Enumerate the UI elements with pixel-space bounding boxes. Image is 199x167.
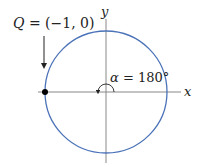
- point-q-label: Q = (−1, 0): [13, 15, 94, 31]
- x-axis-label: x: [184, 84, 192, 99]
- y-axis-label: y: [100, 4, 109, 19]
- angle-label: α = 180°: [110, 70, 169, 85]
- point-q: [42, 89, 48, 95]
- unit-circle-diagram: Q = (−1, 0) α = 180° x y: [0, 0, 199, 167]
